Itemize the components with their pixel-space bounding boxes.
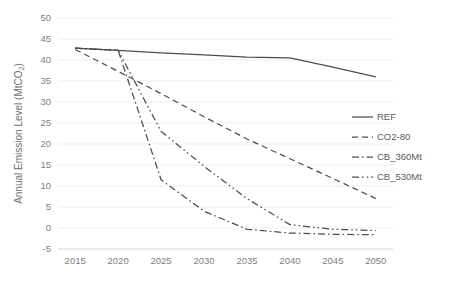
emission-line-chart: 50454035302520151050-5 20152020202520302… [0, 0, 468, 288]
legend-label-cb-530mt: CB_530Mt [377, 171, 422, 182]
chart-legend: REFCO2-80CB_360MtCB_530Mt [352, 111, 422, 182]
y-tick-label: 40 [40, 54, 51, 65]
x-tick-label: 2045 [322, 255, 343, 266]
y-tick-label: 5 [46, 201, 51, 212]
series-line-co2-80 [75, 50, 376, 199]
y-axis-title-main: Annual Emission Level (MtCO [13, 70, 24, 204]
x-tick-label: 2020 [108, 255, 129, 266]
y-tick-label: 45 [40, 33, 51, 44]
y-tick-label: 0 [46, 222, 51, 233]
legend-label-ref: REF [377, 111, 396, 122]
x-axis-tick-labels: 20152020202520302035204020452050 [65, 255, 387, 266]
y-tick-label: 25 [40, 117, 51, 128]
x-tick-label: 2015 [65, 255, 86, 266]
y-tick-label: 30 [40, 96, 51, 107]
x-tick-label: 2035 [236, 255, 257, 266]
y-axis-tick-labels: 50454035302520151050-5 [40, 12, 51, 254]
y-tick-label: 10 [40, 180, 51, 191]
y-tick-label: 20 [40, 138, 51, 149]
y-tick-label: -5 [43, 243, 51, 254]
x-tick-label: 2050 [365, 255, 386, 266]
y-tick-label: 15 [40, 159, 51, 170]
gridlines-group [58, 18, 393, 249]
y-axis-title-tail: ) [13, 63, 24, 66]
chart-canvas: 50454035302520151050-5 20152020202520302… [0, 0, 468, 288]
y-axis-title: Annual Emission Level (MtCO2) [13, 63, 26, 204]
legend-label-co2-80: CO2-80 [377, 131, 410, 142]
legend-label-cb-360mt: CB_360Mt [377, 151, 422, 162]
x-tick-label: 2040 [279, 255, 300, 266]
x-tick-label: 2025 [151, 255, 172, 266]
x-tick-label: 2030 [193, 255, 214, 266]
series-line-cb-530mt [75, 48, 376, 230]
y-tick-label: 50 [40, 12, 51, 23]
y-tick-label: 35 [40, 75, 51, 86]
